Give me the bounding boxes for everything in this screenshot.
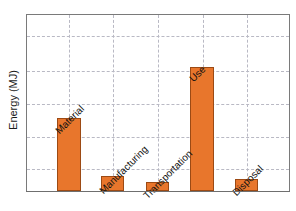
bar-chart-figure: Energy (MJ) MaterialManufacturingTranspo… — [0, 0, 296, 211]
bar-material[interactable] — [57, 118, 81, 191]
bar-manufacturing[interactable] — [101, 176, 124, 191]
y-axis-title: Energy (MJ) — [0, 0, 26, 200]
bar-use[interactable] — [190, 67, 214, 191]
plot-area: MaterialManufacturingTransportationUseDi… — [26, 14, 290, 192]
bar-transportation[interactable] — [146, 182, 169, 191]
bar-disposal[interactable] — [235, 179, 258, 191]
bar-series — [27, 15, 289, 191]
y-axis-title-text: Energy (MJ) — [7, 70, 19, 130]
x-axis-line — [26, 191, 290, 192]
